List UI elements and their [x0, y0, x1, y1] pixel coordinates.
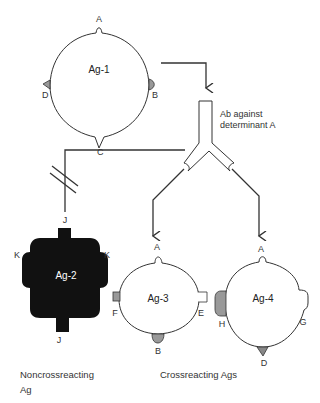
- antigen-ag4: A H G D Ag-4: [215, 244, 308, 368]
- caption-crossreacting: Crossreacting Ags: [160, 369, 237, 380]
- ag3-label-bottom: B: [155, 346, 161, 356]
- ag2-label-right: K: [104, 250, 110, 260]
- ag2-label-bottom: J: [57, 335, 62, 345]
- ag4-label-top: A: [258, 244, 264, 254]
- ag2-label-left: K: [14, 250, 20, 260]
- binding-arrow-ag1: [161, 63, 206, 88]
- determinant-d-shape: [43, 80, 50, 89]
- ag1-label-right: B: [152, 90, 158, 100]
- ag1-label-left: D: [42, 90, 49, 100]
- ag1-label-bottom: C: [97, 147, 104, 157]
- block-mark-2: [50, 173, 76, 193]
- determinant-b-shape: [149, 79, 154, 90]
- determinant-h-shape: [215, 291, 226, 316]
- blocked-binding-line: [65, 150, 185, 212]
- ag3-label-right: E: [198, 308, 204, 318]
- antibody-shape: Ab against determinant A: [184, 101, 276, 171]
- ag4-title: Ag-4: [252, 293, 274, 304]
- ag4-label-right: G: [299, 317, 306, 327]
- ag3-label-top: A: [154, 242, 160, 252]
- antigen-ag2: J K K J Ag-2: [14, 215, 110, 345]
- ag3-title: Ag-3: [147, 293, 169, 304]
- determinant-d-shape-ag4: [257, 347, 268, 356]
- antibody-crossreactivity-diagram: A B C D Ag-1 Ab against determinant A J …: [0, 0, 320, 403]
- caption-noncrossreacting-line1: Noncrossreacting: [20, 369, 94, 380]
- antibody-label-line2: determinant A: [220, 120, 276, 130]
- antigen-ag3: A F E B Ag-3: [112, 242, 207, 356]
- antigen-ag1: A B C D Ag-1: [42, 14, 158, 157]
- determinant-e-shape: [198, 292, 207, 302]
- antibody-label-line1: Ab against: [220, 109, 263, 119]
- ag3-label-left: F: [112, 308, 118, 318]
- ag1-title: Ag-1: [88, 64, 110, 75]
- determinant-b-shape-ag3: [152, 334, 164, 343]
- ag2-label-top: J: [63, 215, 68, 225]
- binding-arrow-ag4: [232, 169, 259, 236]
- ag1-label-top: A: [96, 14, 102, 24]
- ag4-label-left: H: [219, 319, 226, 329]
- ag4-label-bottom: D: [261, 358, 268, 368]
- ag2-title: Ag-2: [55, 270, 77, 281]
- determinant-f-shape: [113, 292, 120, 301]
- caption-noncrossreacting-line2: Ag: [20, 384, 32, 395]
- binding-arrow-ag3: [153, 169, 184, 236]
